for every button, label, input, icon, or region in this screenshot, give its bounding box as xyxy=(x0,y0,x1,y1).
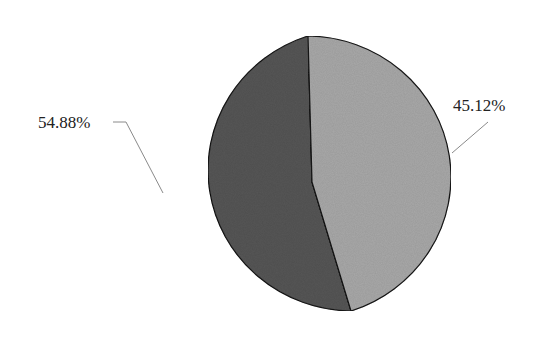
leader-line-45-12 xyxy=(452,122,488,153)
data-label-54-88: 54.88% xyxy=(38,113,90,132)
leader-line-54-88 xyxy=(113,122,163,193)
data-label-45-12: 45.12% xyxy=(453,96,505,115)
pie-chart: 54.88% 45.12% xyxy=(0,0,555,344)
